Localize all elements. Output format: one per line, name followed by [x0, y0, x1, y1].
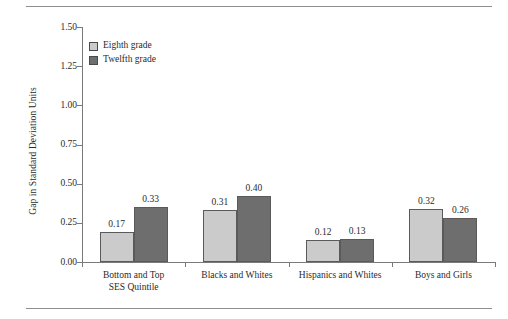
y-axis-tick-label: 1.00 [60, 101, 77, 111]
y-axis-tick-label: 0.75 [60, 140, 77, 150]
x-axis-tick-mark [495, 262, 496, 267]
x-axis-tick-mark [289, 262, 290, 267]
bar [100, 232, 134, 262]
x-axis-tick-mark [392, 262, 393, 267]
y-axis-tick-label: 1.50 [60, 23, 77, 33]
bar-value-label: 0.31 [203, 198, 237, 208]
legend-swatch-icon [89, 42, 98, 51]
bottom-horizontal-rule [26, 308, 492, 309]
y-axis-tick-label: 0.25 [60, 219, 77, 229]
y-axis-tick-label: 0.50 [60, 179, 77, 189]
bar [340, 239, 374, 263]
bar [306, 240, 340, 262]
bar-value-label: 0.33 [134, 195, 168, 205]
top-horizontal-rule [26, 6, 492, 7]
x-axis-tick-mark [185, 262, 186, 267]
x-axis-category-label: Boys and Girls [392, 270, 495, 282]
bar [203, 210, 237, 262]
bar-value-label: 0.26 [443, 206, 477, 216]
bar [134, 207, 168, 262]
y-axis-title: Gap in Standard Deviation Units [26, 34, 40, 269]
bar [409, 209, 443, 262]
legend-item-label: Twelfth grade [103, 55, 156, 65]
bar [443, 218, 477, 262]
bar-value-label: 0.12 [306, 228, 340, 238]
bar-value-label: 0.13 [340, 227, 374, 237]
bar-value-label: 0.32 [409, 197, 443, 207]
x-axis-tick-mark [82, 262, 83, 267]
legend-item: Twelfth grade [89, 54, 156, 66]
y-axis-tick-label: 1.25 [60, 62, 77, 72]
x-axis-category-label: Blacks and Whites [185, 270, 288, 282]
y-axis-tick-label: 0.00 [60, 258, 77, 268]
chart-legend: Eighth gradeTwelfth grade [89, 40, 156, 68]
x-axis-category-label: Hispanics and Whites [289, 270, 392, 282]
legend-swatch-icon [89, 56, 98, 65]
bar-value-label: 0.40 [237, 184, 271, 194]
x-axis-category-label: Bottom and Top SES Quintile [82, 270, 185, 293]
legend-item-label: Eighth grade [103, 41, 152, 51]
bar-value-label: 0.17 [100, 220, 134, 230]
bar [237, 196, 271, 262]
bar-chart-figure: Gap in Standard Deviation Units 0.000.25… [0, 0, 508, 319]
legend-item: Eighth grade [89, 40, 156, 52]
